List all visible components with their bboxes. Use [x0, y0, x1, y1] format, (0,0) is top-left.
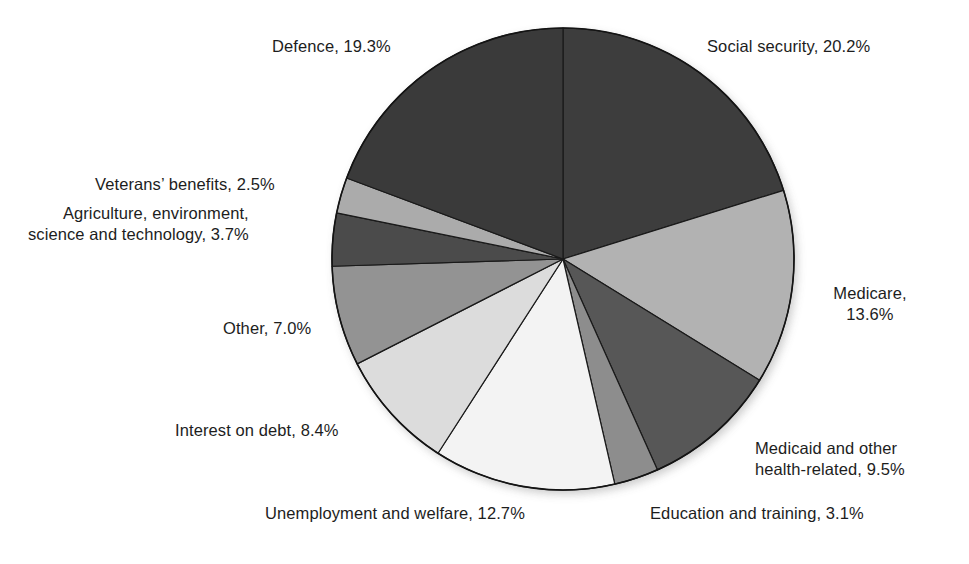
slice-label-social-security: Social security, 20.2% — [707, 36, 870, 57]
pie-chart-figure: Social security, 20.2% Medicare, 13.6% M… — [0, 0, 969, 564]
slice-label-defence: Defence, 19.3% — [272, 36, 391, 57]
slice-label-agriculture-environment-science-and-technology: Agriculture, environment, science and te… — [28, 203, 249, 245]
slice-label-medicaid-and-other-health-related: Medicaid and other health-related, 9.5% — [755, 438, 905, 480]
slice-label-education-and-training: Education and training, 3.1% — [650, 503, 864, 524]
pie-slice-group — [332, 28, 794, 490]
slice-label-interest-on-debt: Interest on debt, 8.4% — [175, 420, 339, 441]
slice-label-other: Other, 7.0% — [223, 318, 311, 339]
slice-label-veterans-benefits: Veterans’ benefits, 2.5% — [95, 174, 275, 195]
slice-label-medicare: Medicare, 13.6% — [800, 283, 940, 325]
slice-label-unemployment-and-welfare: Unemployment and welfare, 12.7% — [265, 503, 525, 524]
